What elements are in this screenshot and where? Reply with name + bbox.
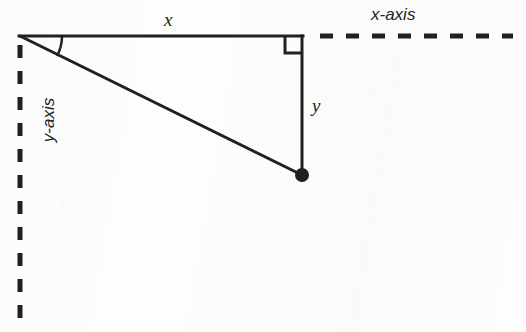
right-angle-marker	[285, 37, 302, 53]
y-axis-label: y-axis	[40, 98, 57, 142]
endpoint-dot	[295, 168, 309, 182]
hypotenuse-line	[20, 36, 302, 175]
horizontal-leg-label: x	[164, 10, 172, 29]
x-axis-label: x-axis	[371, 6, 415, 23]
vertical-leg-label: y	[312, 96, 320, 115]
geometry-diagram: x y x-axis y-axis	[0, 0, 526, 332]
angle-arc	[57, 37, 62, 56]
diagram-canvas	[0, 0, 526, 332]
